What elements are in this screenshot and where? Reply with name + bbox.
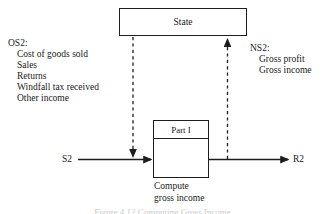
figure-canvas: State OS2: Cost of goods sold Sales Retu… [0, 0, 321, 214]
process-box-part-1: Part I [153, 120, 209, 178]
state-box-label-wrap: State [120, 9, 246, 35]
figure-caption-cropped: Figure 4.12 Computing Gross Income [60, 207, 265, 214]
input-flow-label: S2 [62, 154, 72, 165]
output-flow-label: R2 [293, 154, 304, 165]
process-box-header-label: Part I [171, 125, 191, 135]
old-state-item: Other income [17, 93, 99, 104]
old-state-item: Cost of goods sold [17, 49, 99, 60]
old-state-item: Sales [17, 60, 99, 71]
state-box-label: State [174, 17, 193, 27]
old-state-item: Windfall tax received [17, 82, 99, 93]
old-state-heading: OS2: [8, 38, 99, 49]
old-state-annotation: OS2: Cost of goods sold Sales Returns Wi… [8, 38, 99, 104]
process-caption-line-1: Compute [154, 181, 204, 193]
process-box-caption: Compute gross income [154, 181, 204, 204]
process-caption-line-2: gross income [154, 193, 204, 205]
new-state-item: Gross profit [259, 54, 312, 65]
old-state-item: Returns [17, 71, 99, 82]
process-box-header: Part I [154, 121, 208, 139]
new-state-heading: NS2: [250, 43, 312, 54]
new-state-item: Gross income [259, 65, 312, 76]
new-state-annotation: NS2: Gross profit Gross income [250, 43, 312, 76]
state-box: State [119, 8, 247, 36]
